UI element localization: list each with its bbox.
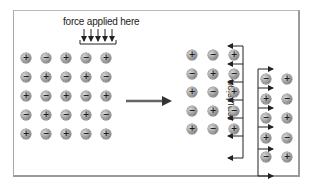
plus-ion-icon: + [282,152,292,162]
minus-ion-icon: − [261,152,271,162]
minus-ion-icon: − [101,110,111,120]
force-arrows [80,29,116,44]
plus-ion-icon: + [101,91,111,101]
plus-ion-icon: + [187,87,197,97]
minus-ion-icon: − [81,129,91,139]
plus-ion-icon: + [81,72,91,82]
minus-ion-icon: − [282,133,292,143]
plus-ion-icon: + [21,91,31,101]
plus-ion-icon: + [101,129,111,139]
plus-ion-icon: + [41,72,51,82]
minus-ion-icon: − [208,50,218,60]
plus-ion-icon: + [261,133,271,143]
minus-ion-icon: − [81,53,91,63]
plus-ion-icon: + [261,94,271,104]
plus-ion-icon: + [282,113,292,123]
plus-ion-icon: + [229,87,239,97]
minus-ion-icon: − [41,129,51,139]
minus-ion-icon: − [21,110,31,120]
plus-ion-icon: + [282,74,292,84]
plus-ion-icon: + [61,91,71,101]
plus-ion-icon: + [61,53,71,63]
plus-ion-icon: + [229,124,239,134]
minus-ion-icon: − [187,69,197,79]
plus-ion-icon: + [187,50,197,60]
minus-ion-icon: − [61,72,71,82]
plus-ion-icon: + [21,53,31,63]
minus-ion-icon: − [187,106,197,116]
minus-ion-icon: − [229,106,239,116]
plus-ion-icon: + [21,129,31,139]
plus-ion-icon: + [208,106,218,116]
plus-ion-icon: + [41,110,51,120]
minus-ion-icon: − [21,72,31,82]
plus-ion-icon: + [61,129,71,139]
minus-ion-icon: − [101,72,111,82]
minus-ion-icon: − [81,91,91,101]
minus-ion-icon: − [208,87,218,97]
minus-ion-icon: − [229,69,239,79]
minus-ion-icon: − [41,91,51,101]
plus-ion-icon: + [229,50,239,60]
plus-ion-icon: + [101,53,111,63]
minus-ion-icon: − [282,94,292,104]
plus-ion-icon: + [81,110,91,120]
plus-ion-icon: + [187,124,197,134]
minus-ion-icon: − [261,113,271,123]
minus-ion-icon: − [61,110,71,120]
right-arrow-icon [126,96,172,106]
minus-ion-icon: − [208,124,218,134]
minus-ion-icon: − [261,74,271,84]
plus-ion-icon: + [208,69,218,79]
minus-ion-icon: − [41,53,51,63]
